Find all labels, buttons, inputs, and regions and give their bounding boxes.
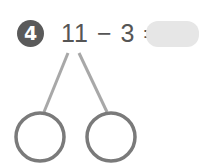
number-bond-diagram xyxy=(0,0,201,166)
bond-line-left xyxy=(44,53,68,112)
bond-part-circle-right[interactable] xyxy=(87,113,135,161)
bond-part-circle-left[interactable] xyxy=(16,113,64,161)
bond-line-right xyxy=(79,53,107,112)
